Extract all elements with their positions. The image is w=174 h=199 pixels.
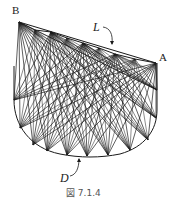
point-a-label: A (159, 52, 167, 63)
figure-caption: 図 7.1.4 (66, 186, 101, 199)
polygon-lines-diagram (0, 0, 174, 199)
curve-d-label: D (60, 172, 69, 184)
line-l (19, 22, 156, 63)
line-l-label: L (93, 21, 100, 33)
arrowhead-l (110, 41, 114, 45)
diagram-figure: B A L D 図 7.1.4 (0, 0, 174, 199)
point-b-label: B (12, 5, 19, 16)
arrowhead-d (77, 158, 81, 162)
